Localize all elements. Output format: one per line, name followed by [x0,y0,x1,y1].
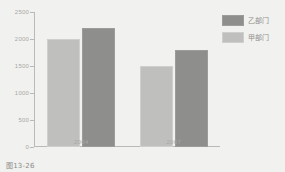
bars-layer [35,12,220,147]
figure-container: 05001000150020002500 20042007 乙部门 甲部门 图1… [0,0,285,172]
y-tick-mark [30,66,34,67]
legend-item[interactable]: 乙部门 [222,13,280,27]
y-tick-label: 0 [25,144,29,150]
y-tick-mark [30,12,34,13]
y-tick-mark [30,120,34,121]
chart-legend: 乙部门 甲部门 [222,13,280,47]
y-tick-label: 500 [18,117,29,123]
y-tick-label: 1000 [15,90,29,96]
legend-item-label: 甲部门 [248,32,269,42]
bar[interactable] [47,39,80,147]
x-tick-label: 2004 [74,139,89,145]
legend-item[interactable]: 甲部门 [222,30,280,44]
y-tick-mark [30,147,34,148]
y-tick-label: 1500 [15,63,29,69]
legend-swatch-icon [222,15,244,26]
legend-swatch-icon [222,32,244,43]
y-tick-mark [30,39,34,40]
figure-caption: 图13-26 [6,160,35,170]
bar[interactable] [175,50,208,147]
bar[interactable] [82,28,115,147]
y-tick-mark [30,93,34,94]
y-tick-label: 2500 [15,9,29,15]
legend-item-label: 乙部门 [248,15,269,25]
plot-area: 05001000150020002500 [34,12,220,147]
y-tick-label: 2000 [15,36,29,42]
bar[interactable] [140,66,173,147]
x-tick-label: 2007 [166,139,181,145]
